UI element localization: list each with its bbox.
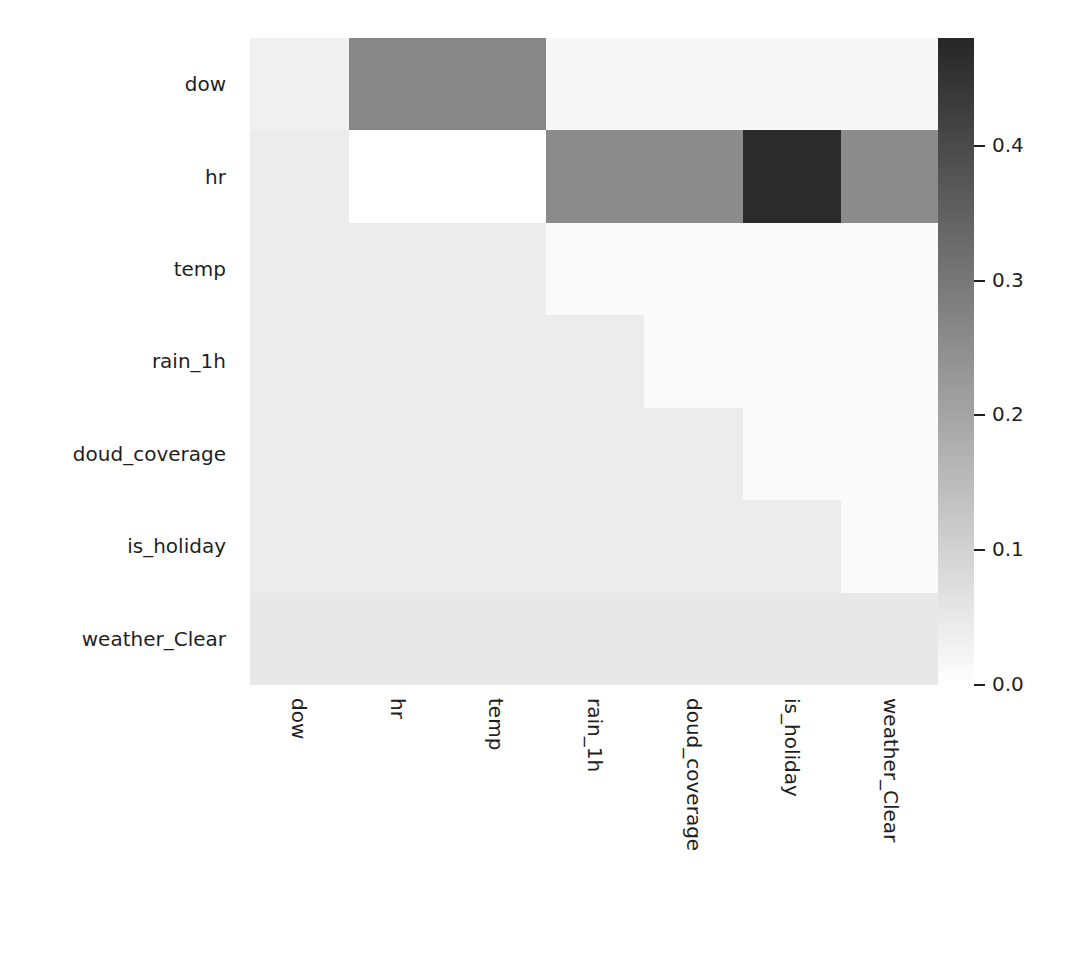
colorbar-gradient [938,38,974,685]
heatmap-cell [349,408,448,500]
colorbar-tick-label: 0.3 [992,270,1024,290]
heatmap-cell [349,593,448,685]
heatmap-cell [644,38,743,130]
heatmap-cell [841,500,940,592]
x-tick-label: doud_coverage [682,698,706,851]
heatmap-cell [447,593,546,685]
heatmap-cell [644,315,743,407]
heatmap-cell [349,38,448,130]
heatmap-cell [349,130,448,222]
heatmap-cell [250,593,349,685]
x-tick-label: temp [484,698,508,750]
heatmap-cell [349,315,448,407]
heatmap-cell [644,130,743,222]
colorbar-tick-label: 0.2 [992,404,1024,424]
heatmap-cell [644,500,743,592]
x-tick-label: dow [287,698,311,739]
heatmap-cell [250,315,349,407]
heatmap-cell [841,223,940,315]
heatmap-cell [841,38,940,130]
heatmap-cell [743,38,842,130]
heatmap-cell [743,593,842,685]
y-tick-label: dow [0,38,238,130]
heatmap-cell [841,408,940,500]
heatmap-cell [743,315,842,407]
heatmap-cell [644,593,743,685]
x-tick-column: is_holiday [743,692,842,962]
heatmap-cell [447,315,546,407]
colorbar-tick-label: 0.4 [992,135,1024,155]
colorbar: 0.00.10.20.30.4 [938,38,1070,685]
heatmap-cell [250,500,349,592]
heatmap-cell [841,593,940,685]
colorbar-tick-label: 0.0 [992,674,1024,694]
colorbar-tick-mark [974,549,985,551]
heatmap-cell [841,315,940,407]
x-tick-column: rain_1h [546,692,645,962]
y-tick-label: is_holiday [0,500,238,592]
heatmap-cell [743,130,842,222]
heatmap-cell [447,223,546,315]
x-tick-label: is_holiday [780,698,804,797]
colorbar-tick-mark [974,145,985,147]
heatmap-cell [546,38,645,130]
heatmap-cell [841,130,940,222]
y-tick-label: hr [0,130,238,222]
heatmap-cell [250,38,349,130]
heatmap-cell [743,500,842,592]
heatmap-cell [447,500,546,592]
heatmap-cell [349,500,448,592]
colorbar-tick-label: 0.1 [992,539,1024,559]
heatmap-cell [546,223,645,315]
heatmap-grid [250,38,940,685]
heatmap-cell [546,130,645,222]
heatmap-cell [546,408,645,500]
heatmap-cell [644,223,743,315]
x-tick-column: temp [447,692,546,962]
heatmap-cell [447,130,546,222]
heatmap-cell [644,408,743,500]
heatmap-cell [349,223,448,315]
heatmap-cell [743,408,842,500]
heatmap-figure: dow hr temp rain_1h doud_coverage is_hol… [0,0,1070,969]
colorbar-tick-mark [974,684,985,686]
y-tick-label: doud_coverage [0,408,238,500]
x-axis-tick-labels: dow hr temp rain_1h doud_coverage is_hol… [250,692,940,962]
heatmap-cell [546,500,645,592]
x-tick-label: hr [386,698,410,719]
heatmap-cell [546,593,645,685]
heatmap-cell [447,408,546,500]
x-tick-column: doud_coverage [644,692,743,962]
heatmap-cell [546,315,645,407]
colorbar-tick-mark [974,414,985,416]
y-tick-label: temp [0,223,238,315]
x-tick-column: dow [250,692,349,962]
x-tick-label: weather_Clear [879,698,903,842]
heatmap-cell [250,130,349,222]
heatmap-cell [743,223,842,315]
heatmap-cell [250,408,349,500]
colorbar-tick-mark [974,280,985,282]
y-axis-tick-labels: dow hr temp rain_1h doud_coverage is_hol… [0,38,238,685]
heatmap-cell [250,223,349,315]
x-tick-column: weather_Clear [841,692,940,962]
x-tick-column: hr [349,692,448,962]
y-tick-label: rain_1h [0,315,238,407]
heatmap-cell [447,38,546,130]
y-tick-label: weather_Clear [0,593,238,685]
x-tick-label: rain_1h [583,698,607,772]
